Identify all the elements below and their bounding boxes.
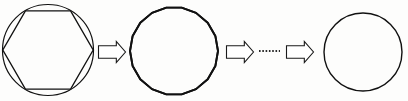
geometry-figure: [0, 0, 408, 101]
arrow-2: [227, 42, 254, 63]
step-1-inscribed-hexagon: [3, 11, 93, 89]
step-2-inscribed-polygon-closure: [130, 8, 218, 95]
step-1-circle-with-inscribed-hexagon: [3, 5, 94, 96]
step-3-limit-circle: [324, 13, 402, 91]
step-2-many-sided-polygon: [130, 8, 218, 95]
right-arrow-icon: [227, 42, 254, 63]
figure-canvas: [0, 0, 408, 101]
right-arrow-icon: [287, 42, 314, 63]
step-3-circle: [324, 13, 402, 91]
arrow-1: [99, 42, 126, 63]
step-1-circumscribed-circle: [3, 5, 94, 96]
right-arrow-icon: [99, 42, 126, 63]
arrow-3: [287, 42, 314, 63]
